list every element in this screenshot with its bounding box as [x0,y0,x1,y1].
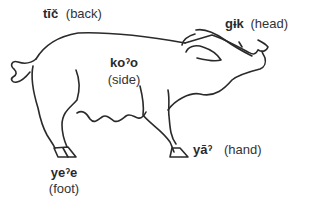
rear-hoof-split [63,148,68,157]
gloss-side: (side) [99,73,149,87]
rear-thigh [32,66,55,148]
gloss-hand: (hand) [224,142,262,157]
gloss-back: (back) [66,6,102,21]
ear-notch [239,42,242,47]
term-hand: yāˀ [193,142,212,157]
gloss-foot: (foot) [40,182,88,196]
front-leg-front [168,90,176,144]
label-head: gɨk (head) [225,17,288,31]
label-side: koˀo (side) [99,56,149,87]
term-side: koˀo [99,56,149,70]
rear-leg-inner [62,70,79,147]
jaw-line [168,51,265,110]
ear-lower [186,46,221,61]
ear-upper [196,30,252,56]
term-head: gɨk [225,16,244,31]
label-foot: yeˀe (foot) [40,166,88,196]
gloss-head: (head) [250,16,288,31]
snout [258,40,268,51]
label-hand: yāˀ (hand) [193,143,262,157]
term-foot: yeˀe [40,166,88,180]
term-back: tīč [43,6,58,21]
label-back: tīč (back) [43,7,102,21]
belly-line [77,112,146,122]
